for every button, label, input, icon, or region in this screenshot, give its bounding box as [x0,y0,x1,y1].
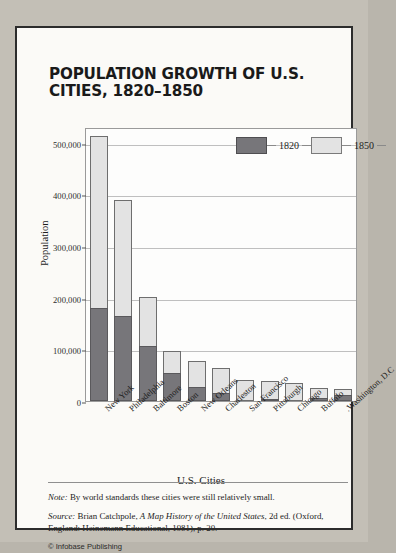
bar-group [86,129,356,401]
legend-dash-end [377,145,386,146]
note-label: Note: [48,492,68,502]
bar-column [285,129,303,401]
bottom-rule [15,528,353,530]
figure-panel: POPULATION GROWTH OF U.S. CITIES, 1820–1… [15,26,353,530]
bar-column [139,129,157,401]
x-axis-labels: New YorkPhiladelphiaBaltimoreBostonNew O… [85,404,357,466]
footer-note: Note: By world standards these cities we… [48,491,348,503]
footer-source: Source: Brian Catchpole, A Map History o… [48,510,348,534]
bar-1850-total [114,200,132,401]
publisher-credit: © Infobase Publishing [48,541,348,553]
source-label: Source: [48,511,75,521]
bar-column [212,129,230,401]
figure-footer: Note: By world standards these cities we… [48,482,348,553]
bar-1820-segment [90,308,108,401]
source-work: A Map History of the United States [140,511,265,521]
page-title: POPULATION GROWTH OF U.S. CITIES, 1820–1… [49,66,354,100]
chart-container: Population 0100,000200,000300,000400,000… [45,126,357,416]
bar-1850-total [90,136,108,401]
plot-frame: 0100,000200,000300,000400,000500,000 182… [85,128,357,402]
bar-column [188,129,206,401]
footer-divider [48,482,348,483]
bar-column [310,129,328,401]
note-text: By world standards these cities were sti… [68,492,275,502]
bar-column [261,129,279,401]
bar-column [163,129,181,401]
bar-column [334,129,352,401]
y-axis-title: Population [39,220,50,266]
bar-column [90,129,108,401]
bar-column [114,129,132,401]
bar-column [236,129,254,401]
source-author: Brian Catchpole, [75,511,140,521]
